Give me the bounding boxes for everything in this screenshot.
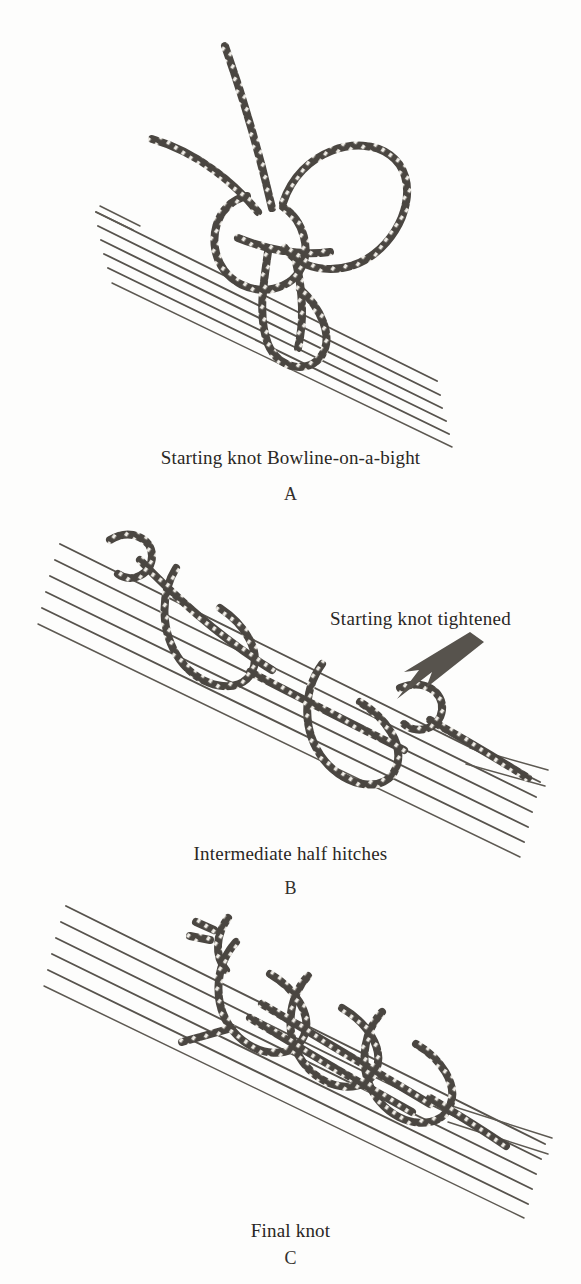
panel-c-letter: C xyxy=(0,1248,581,1269)
panel-a-artwork xyxy=(0,0,581,440)
rope-icon xyxy=(182,918,506,1146)
panel-b-artwork xyxy=(0,520,581,860)
rope-icon xyxy=(152,46,407,367)
panel-b: Starting knot tightened Intermediate hal… xyxy=(0,520,581,920)
panel-b-letter: B xyxy=(0,878,581,899)
starting-knot-tightened-label: Starting knot tightened xyxy=(330,608,511,630)
panel-c: Final knot C xyxy=(0,900,581,1284)
wire-bundle-icon xyxy=(96,206,452,447)
wire-bundle-icon xyxy=(38,544,548,857)
panel-a-caption: Starting knot Bowline-on-a-bight xyxy=(0,447,581,469)
panel-b-caption: Intermediate half hitches xyxy=(0,843,581,865)
figure-page: Starting knot Bowline-on-a-bight A xyxy=(0,0,581,1284)
rope-icon xyxy=(110,535,528,785)
panel-c-artwork xyxy=(0,900,581,1210)
panel-a-letter: A xyxy=(0,484,581,505)
panel-a: Starting knot Bowline-on-a-bight A xyxy=(0,0,581,520)
panel-c-caption: Final knot xyxy=(0,1220,581,1242)
